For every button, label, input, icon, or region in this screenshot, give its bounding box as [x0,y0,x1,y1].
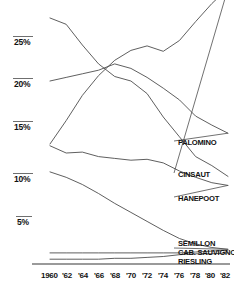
x-tick-label: '74 [158,272,168,280]
x-tick-label: '62 [62,272,72,280]
y-tick-label: 20% [14,80,30,89]
x-tick-label: '82 [220,272,230,280]
x-tick-label: 1960 [41,272,58,280]
series-label-palomino: PALOMINO [178,138,216,147]
y-tick-label: 25% [14,38,30,47]
y-tick-label: 15% [14,123,30,132]
x-tick-label: '80 [205,272,215,280]
series-line-semillon [50,172,228,249]
series-label-cinsaut: CINSAUT [178,170,210,179]
x-tick-label: '70 [126,272,136,280]
wine-varietal-share-line-chart: 25%20%15%10%5% 1960'62'64'66'68'70'72'74… [0,0,234,292]
y-tick-label: 10% [14,175,30,184]
series-line-palomino [50,64,228,133]
x-tick-label: '66 [94,272,104,280]
x-tick-label: '76 [174,272,184,280]
series-label-hanepoot: HANEPOOT [178,194,219,203]
x-tick-label: '78 [190,272,200,280]
x-tick-label: '64 [78,272,88,280]
series-line-cinsaut [50,0,228,144]
x-tick-label: '72 [142,272,152,280]
series-label-riesling: RIESLING [178,257,212,266]
series-line-group [50,0,228,259]
y-tick-label: 5% [17,218,29,227]
x-tick-label: '68 [110,272,120,280]
